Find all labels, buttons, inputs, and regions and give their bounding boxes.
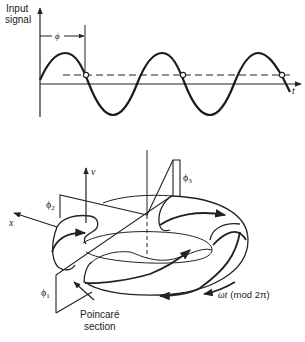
phi1-label: ϕ1 [41, 287, 50, 300]
y-axis-label-input: Input [6, 3, 28, 14]
torus-phase-space [14, 150, 248, 313]
torus-cut-right-top [159, 196, 172, 231]
x-axis [14, 213, 57, 227]
torus-outer-back [103, 195, 172, 203]
poincare-plane-top [147, 160, 180, 215]
phase-label: ϕ [55, 31, 60, 41]
diagram-canvas: Input signal t ϕ [0, 0, 305, 342]
trajectory-right [213, 232, 246, 245]
phi3-label: ϕ3 [183, 172, 192, 185]
sample-point-1 [83, 72, 88, 77]
poincare-plane [56, 160, 173, 313]
y-axis-label-signal: signal [5, 14, 31, 25]
input-signal-plot: Input signal t ϕ [5, 3, 301, 117]
torus-outer-right [85, 196, 248, 295]
phi2-label: ϕ2 [46, 199, 55, 212]
time-axis-label: t [292, 85, 295, 96]
rotation-label: ωt(mod 2π) [218, 289, 270, 300]
sample-point-3 [279, 72, 284, 77]
v-axis-label: v [91, 166, 96, 177]
torus-front-band [90, 249, 212, 264]
trajectory-top-right [160, 213, 225, 225]
x-axis-label: x [8, 217, 14, 228]
trajectory-left [52, 233, 85, 252]
phi2-plane [60, 195, 147, 218]
sample-point-2 [180, 72, 185, 77]
poincare-section-label-line2: section [84, 321, 116, 332]
poincare-section-label-line1: Poincaré [80, 309, 120, 320]
torus-front-lower [84, 262, 92, 283]
